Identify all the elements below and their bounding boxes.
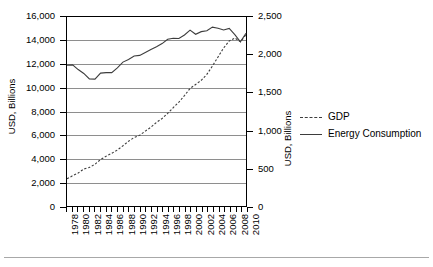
y-axis-left-tick-mark: [60, 16, 66, 17]
x-axis-tick-mark: [173, 207, 174, 212]
legend-item-label: GDP: [328, 112, 350, 122]
series-lines: [67, 17, 246, 206]
x-axis-labels: 1978198019821984198619881990199219941996…: [0, 214, 433, 262]
x-axis-tick-mark: [123, 207, 124, 212]
x-axis-tick-mark: [185, 207, 186, 212]
x-axis-tick-mark: [100, 207, 101, 212]
x-axis-tick-label: 2008: [240, 214, 250, 235]
legend-item-label: Energy Consumption: [328, 129, 421, 139]
x-axis-tick-mark: [190, 207, 191, 212]
y-axis-right-tick-label: 1,000: [258, 126, 282, 136]
x-axis-tick-label: 2006: [228, 214, 238, 235]
x-axis-tick-label: 1986: [115, 214, 125, 235]
x-axis-tick-label: 1982: [93, 214, 103, 235]
y-axis-left-tick-label: 8,000: [31, 107, 55, 117]
x-axis-tick-label: 1990: [138, 214, 148, 235]
x-axis-tick-mark: [94, 207, 95, 212]
x-axis-tick-mark: [207, 207, 208, 212]
y-axis-right-tick-label: 2,000: [258, 49, 282, 59]
x-axis-tick-label: 1994: [161, 214, 171, 235]
y-axis-right-tick-label: 0: [258, 202, 263, 212]
x-axis-tick-label: 1996: [172, 214, 182, 235]
x-axis-tick-mark: [202, 207, 203, 212]
x-axis-tick-mark: [151, 207, 152, 212]
y-axis-left-tick-mark: [60, 159, 66, 160]
x-axis-tick-label: 2004: [217, 214, 227, 235]
y-axis-right-tick-mark: [247, 207, 253, 208]
y-axis-left-tick-label: 16,000: [26, 11, 55, 21]
chart-legend: GDPEnergy Consumption: [300, 108, 430, 142]
x-axis-tick-mark: [140, 207, 141, 212]
x-axis-tick-label: 1992: [149, 214, 159, 235]
y-axis-right-tick-label: 500: [258, 164, 274, 174]
x-axis-tick-mark: [213, 207, 214, 212]
y-axis-right-title: USD, Billions: [282, 104, 293, 174]
y-axis-left-tick-mark: [60, 135, 66, 136]
x-axis-tick-mark: [66, 207, 67, 212]
y-axis-left-tick-mark: [60, 112, 66, 113]
x-axis-tick-mark: [117, 207, 118, 212]
x-axis-tick-label: 1978: [70, 214, 80, 235]
x-axis-tick-mark: [128, 207, 129, 212]
y-axis-left-tick-mark: [60, 207, 66, 208]
x-axis-tick-mark: [179, 207, 180, 212]
x-axis-tick-mark: [224, 207, 225, 212]
x-axis-tick-mark: [168, 207, 169, 212]
y-axis-right-tick-mark: [247, 169, 253, 170]
y-axis-left-tick-mark: [60, 40, 66, 41]
y-axis-left-tick-mark: [60, 183, 66, 184]
line-gdp: [67, 35, 246, 179]
x-axis-tick-mark: [162, 207, 163, 212]
y-axis-left-tick-label: 14,000: [26, 35, 55, 45]
x-axis-tick-label: 2010: [251, 214, 261, 235]
x-axis-tick-label: 1984: [104, 214, 114, 235]
plot-area: [66, 16, 247, 207]
x-axis-tick-label: 1980: [81, 214, 91, 235]
y-axis-right-tick-mark: [247, 16, 253, 17]
y-axis-right-tick-mark: [247, 54, 253, 55]
x-axis-tick-mark: [230, 207, 231, 212]
y-axis-left-tick-mark: [60, 88, 66, 89]
y-axis-left-tick-label: 4,000: [31, 155, 55, 165]
x-axis-tick-label: 1998: [183, 214, 193, 235]
x-axis-tick-mark: [157, 207, 158, 212]
y-axis-left-tick-mark: [60, 64, 66, 65]
y-axis-right-tick-mark: [247, 131, 253, 132]
y-axis-right-tick-label: 2,500: [258, 11, 282, 21]
x-axis-tick-mark: [145, 207, 146, 212]
x-axis-tick-mark: [236, 207, 237, 212]
y-axis-right-tick-mark: [247, 92, 253, 93]
x-axis-tick-mark: [106, 207, 107, 212]
x-axis-tick-mark: [219, 207, 220, 212]
page-divider-rule: [4, 257, 429, 258]
x-axis-tick-label: 1988: [127, 214, 137, 235]
x-axis-tick-mark: [72, 207, 73, 212]
y-axis-right-tick-label: 1,500: [258, 88, 282, 98]
y-axis-left-tick-label: 6,000: [31, 131, 55, 141]
x-axis-tick-label: 2000: [194, 214, 204, 235]
x-axis-tick-label: 2002: [206, 214, 216, 235]
x-axis-tick-mark: [134, 207, 135, 212]
legend-item[interactable]: Energy Consumption: [300, 125, 430, 142]
y-axis-left-tick-label: 0: [50, 202, 55, 212]
x-axis-tick-mark: [89, 207, 90, 212]
x-axis-tick-mark: [77, 207, 78, 212]
dashed-line-key: [300, 112, 322, 122]
y-axis-left-tick-label: 10,000: [26, 83, 55, 93]
x-axis-tick-mark: [111, 207, 112, 212]
y-axis-left-tick-label: 12,000: [26, 59, 55, 69]
x-axis-ticks: [66, 207, 247, 213]
y-axis-left-tick-label: 2,000: [31, 178, 55, 188]
x-axis-tick-mark: [83, 207, 84, 212]
x-axis-tick-mark: [241, 207, 242, 212]
line-energy-consumption: [67, 27, 246, 79]
y-axis-left-title: USD, Billions: [6, 72, 17, 142]
solid-line-key: [300, 129, 322, 139]
chart-figure: 02,0004,0006,0008,00010,00012,00014,0001…: [0, 0, 433, 267]
legend-item[interactable]: GDP: [300, 108, 430, 125]
x-axis-tick-mark: [196, 207, 197, 212]
